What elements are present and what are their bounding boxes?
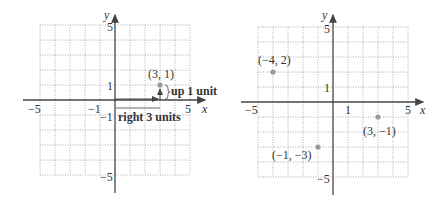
left-graph: y x −5 −1 5 5 1 −1 −5 (3, 1) up 1 unit r… <box>23 8 217 193</box>
left-tick-y-neg5: −5 <box>100 170 113 184</box>
left-tick-y-pos1: 1 <box>107 79 113 93</box>
coordinate-plane-figures: y x −5 −1 5 5 1 −1 −5 (3, 1) up 1 unit r… <box>0 0 445 206</box>
up-1-unit-brace <box>165 85 170 99</box>
point-3-neg1 <box>375 114 380 119</box>
right-tick-x-pos1: 1 <box>345 103 351 117</box>
left-tick-x-neg1: −1 <box>88 102 101 116</box>
right-tick-y-pos1: 1 <box>324 81 330 95</box>
left-tick-x-neg5: −5 <box>28 102 41 116</box>
point-3-neg1-label: (3, −1) <box>363 124 396 138</box>
right-tick-y-pos5: 5 <box>324 22 330 36</box>
left-x-axis-label: x <box>201 102 208 116</box>
point-3-1-label: (3, 1) <box>148 67 174 81</box>
point-neg4-2-label: (−4, 2) <box>258 53 291 67</box>
point-neg1-neg3 <box>315 144 320 149</box>
point-neg1-neg3-label: (−1, −3) <box>272 148 312 162</box>
point-neg4-2 <box>270 69 275 74</box>
right-tick-x-neg5: −5 <box>245 103 258 117</box>
left-tick-y-neg1: −1 <box>100 110 113 124</box>
left-tick-x-pos5: 5 <box>185 102 191 116</box>
right-graph: y x −5 1 5 5 1 −5 (−4, 2) (3, −1) (−1, −… <box>241 8 426 195</box>
right-y-axis-label: y <box>321 8 328 22</box>
point-3-1 <box>157 82 162 87</box>
left-tick-y-pos5: 5 <box>107 20 113 34</box>
right-3-units-label: right 3 units <box>118 110 181 124</box>
right-tick-x-pos5: 5 <box>405 103 411 117</box>
up-1-unit-label: up 1 unit <box>171 84 217 98</box>
right-tick-y-neg5: −5 <box>317 172 330 186</box>
right-x-axis-label: x <box>419 103 426 117</box>
